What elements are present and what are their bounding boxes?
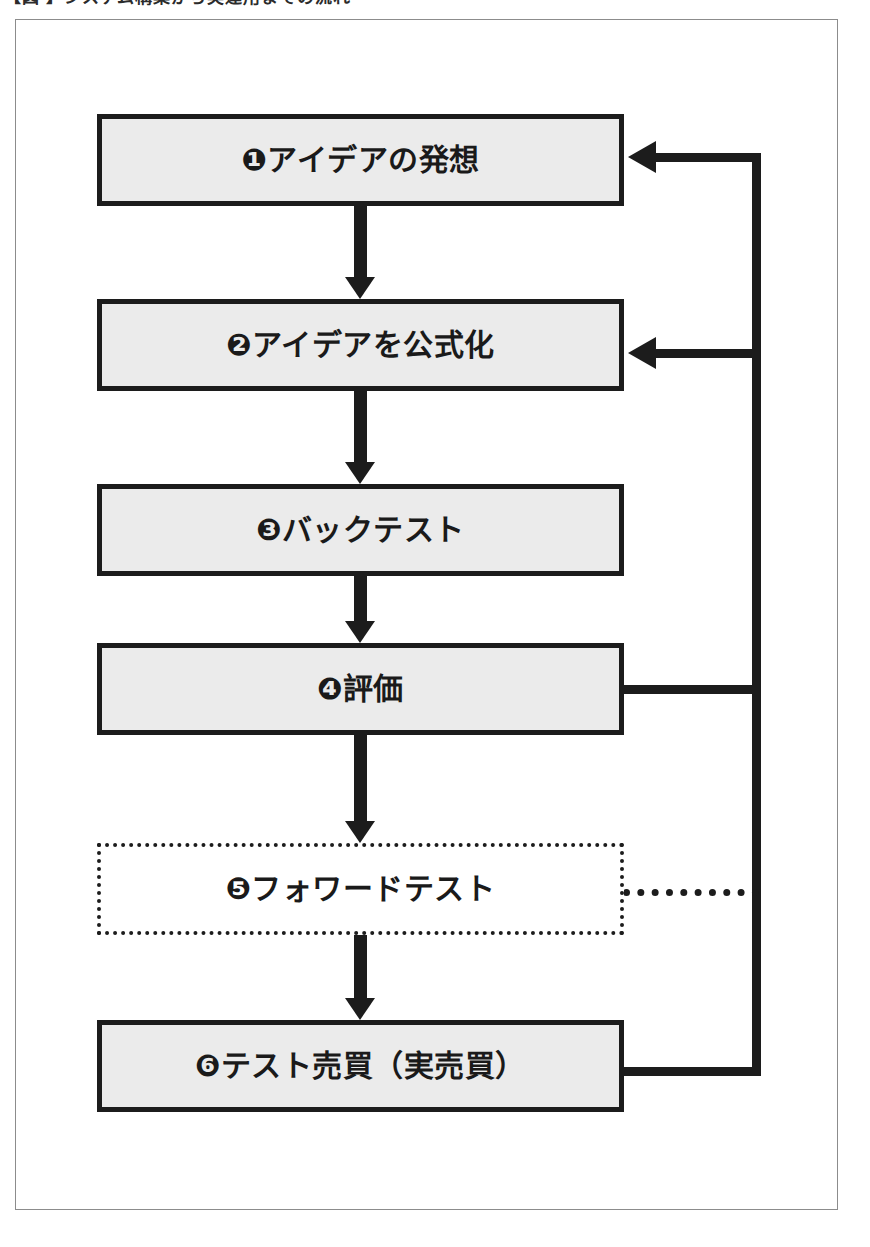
process-box-5-label: ❺フォワードテスト <box>226 874 496 904</box>
process-box-3[interactable]: ❸バックテスト <box>97 484 624 576</box>
arrow-box3-to-box4 <box>345 576 375 643</box>
diagram-page: 【図 】システム構築から実運用までの流れ ❶アイデアの発想 ❷アイデアを公式化 … <box>0 0 870 1247</box>
process-box-4[interactable]: ❹評価 <box>97 643 624 735</box>
process-box-6-label: ❻テスト売買（実売買） <box>195 1051 526 1081</box>
process-box-1[interactable]: ❶アイデアの発想 <box>97 114 624 206</box>
feedback-to-box1-arrowhead <box>628 141 656 173</box>
diagram-frame: ❶アイデアの発想 ❷アイデアを公式化 ❸バックテスト ❹評価 ❺フォワードテスト… <box>15 19 838 1210</box>
feedback-from-box6-horizontal <box>623 1067 761 1076</box>
process-box-2-label: ❷アイデアを公式化 <box>226 330 495 360</box>
process-box-4-label: ❹評価 <box>317 674 404 704</box>
feedback-trunk-vertical <box>752 153 761 1076</box>
process-box-3-label: ❸バックテスト <box>256 515 465 545</box>
arrow-box2-to-box3 <box>345 391 375 484</box>
process-box-1-label: ❶アイデアの発想 <box>241 145 479 175</box>
feedback-to-box2-arrowhead <box>628 337 656 369</box>
arrow-box4-to-box5 <box>345 735 375 843</box>
feedback-to-box1-horizontal <box>656 153 757 162</box>
process-box-2[interactable]: ❷アイデアを公式化 <box>97 299 624 391</box>
feedback-from-box5-dotted <box>623 889 759 896</box>
feedback-to-box2-horizontal <box>656 349 757 358</box>
feedback-from-box4-horizontal <box>623 685 757 694</box>
figure-caption-text: 【図 】システム構築から実運用までの流れ <box>4 0 351 7</box>
arrow-box5-to-box6 <box>345 935 375 1020</box>
figure-caption: 【図 】システム構築から実運用までの流れ <box>0 0 870 14</box>
process-box-5[interactable]: ❺フォワードテスト <box>97 843 624 935</box>
process-box-6[interactable]: ❻テスト売買（実売買） <box>97 1020 624 1112</box>
arrow-box1-to-box2 <box>345 206 375 299</box>
